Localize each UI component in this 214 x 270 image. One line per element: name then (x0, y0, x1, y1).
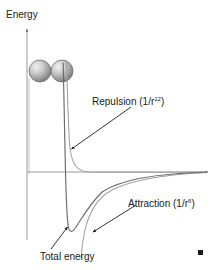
repulsion-label-exponent: 12 (154, 96, 161, 102)
atom-sphere-left (29, 60, 51, 82)
repulsion-label: Repulsion (1/r12) (92, 97, 164, 107)
total-energy-arrow (51, 227, 68, 249)
atom-sphere-right (51, 60, 73, 82)
curve-repulsion (67, 63, 207, 172)
repulsion-arrow (72, 107, 132, 149)
repulsion-label-text: Repulsion (1/r (92, 96, 154, 107)
attraction-label: Attraction (1/r6) (128, 199, 195, 209)
repulsion-label-close: ) (161, 96, 164, 107)
curve-attraction (81, 173, 206, 258)
annotation-arrows (51, 107, 136, 249)
lennard-jones-potential-diagram: Energy Repulsion (1/r12) Attraction (1/r… (0, 0, 214, 270)
total-energy-label: Total energy (40, 252, 94, 262)
diagram-canvas (0, 0, 214, 270)
curve-group (63, 63, 206, 258)
x-axis-end-tick (198, 250, 203, 255)
attraction-arrow (93, 205, 136, 232)
attraction-label-text: Attraction (1/r (128, 198, 188, 209)
atom-pair (29, 60, 73, 174)
attraction-label-close: ) (191, 198, 194, 209)
y-axis-label: Energy (6, 10, 38, 20)
